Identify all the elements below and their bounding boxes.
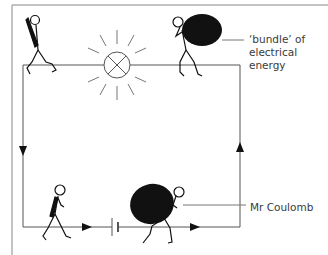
arrow-right-icon [82,223,92,231]
bundle-of-energy-label: ‘bundle’ of electrical energy [249,33,328,72]
figure-walking-empty [43,185,71,240]
bundle-label-line-2: electrical [249,46,328,59]
arrow-down-icon [19,146,27,156]
arrow-right-icon [190,223,200,231]
arrow-up-icon [236,142,244,152]
bundle-label-line-3: energy [249,59,328,72]
figure-carrying-bundle-bottom [126,179,246,243]
figure-carrying-bundle-top [173,14,244,76]
cell-icon [112,218,118,236]
lamp-icon [104,52,130,78]
bundle-label-line-1: ‘bundle’ of [249,33,328,46]
mr-coulomb-label: Mr Coulomb [250,201,313,214]
